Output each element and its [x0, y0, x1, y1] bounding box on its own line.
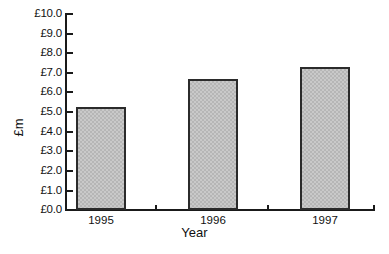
- y-tick-label: £10.0: [2, 7, 62, 19]
- y-tick-label: £7.0: [2, 66, 62, 78]
- y-tick-mark: [67, 111, 73, 113]
- y-tick-mark: [67, 170, 73, 172]
- x-tick-mark: [155, 205, 157, 211]
- bar-chart: £10.0 £9.0 £8.0 £7.0 £6.0 £5.0 £4.0 £3.0…: [0, 0, 389, 254]
- bar-1996: [188, 79, 238, 210]
- y-tick-label: £6.0: [2, 85, 62, 97]
- y-tick-mark: [67, 209, 73, 211]
- y-tick-mark: [67, 150, 73, 152]
- y-tick-label: £1.0: [2, 184, 62, 196]
- y-tick-label: £2.0: [2, 164, 62, 176]
- x-tick-mark: [373, 205, 375, 211]
- bar-1997: [300, 67, 350, 210]
- bar-1995: [76, 107, 126, 210]
- y-tick-mark: [67, 190, 73, 192]
- x-tick-mark: [267, 205, 269, 211]
- y-tick-mark: [67, 131, 73, 133]
- y-tick-mark: [67, 13, 73, 15]
- y-tick-mark: [67, 91, 73, 93]
- y-tick-mark: [67, 72, 73, 74]
- y-axis-title: £m: [11, 104, 26, 152]
- y-tick-mark: [67, 33, 73, 35]
- x-axis-title: Year: [0, 225, 389, 240]
- y-tick-label: £9.0: [2, 27, 62, 39]
- y-tick-mark: [67, 52, 73, 54]
- y-tick-label: £8.0: [2, 46, 62, 58]
- y-tick-label: £0.0: [2, 203, 62, 215]
